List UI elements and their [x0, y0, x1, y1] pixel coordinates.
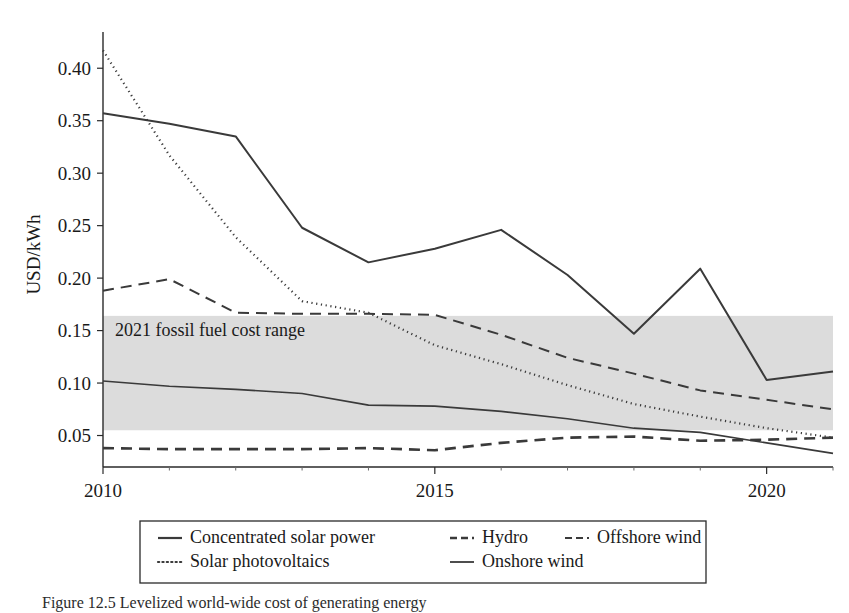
series-line-hydro [103, 437, 833, 451]
y-axis-tick-label: 0.05 [58, 425, 91, 446]
y-axis-tick-label: 0.30 [58, 163, 91, 184]
band-annotation-layer: 2021 fossil fuel cost range [115, 320, 305, 340]
chart-legend: Concentrated solar powerHydroOffshore wi… [140, 521, 706, 583]
axis-title-layer: USD/kWh [23, 214, 44, 295]
y-axis-tick-label: 0.40 [58, 58, 91, 79]
y-axis-title: USD/kWh [23, 214, 44, 295]
figure-caption: Figure 12.5 Levelized world-wide cost of… [42, 593, 832, 613]
band-annotation-label: 2021 fossil fuel cost range [115, 320, 305, 340]
x-axis-tick-label: 2020 [748, 480, 786, 501]
legend-item-label: Hydro [482, 527, 528, 547]
legend-item-concentrated-solar-power[interactable]: Concentrated solar power [158, 527, 375, 547]
legend-item-label: Offshore wind [597, 527, 701, 547]
y-axis-tick-label: 0.10 [58, 373, 91, 394]
y-axis-tick-label: 0.20 [58, 268, 91, 289]
legend-item-label: Solar photovoltaics [190, 551, 329, 571]
legend-item-label: Concentrated solar power [190, 527, 375, 547]
x-axis-tick-label: 2015 [416, 480, 454, 501]
legend-item-label: Onshore wind [482, 551, 584, 571]
x-axis-tick-label: 2010 [84, 480, 122, 501]
y-axis-tick-label: 0.35 [58, 110, 91, 131]
y-axis-tick-label: 0.15 [58, 320, 91, 341]
y-axis-tick-label: 0.25 [58, 215, 91, 236]
